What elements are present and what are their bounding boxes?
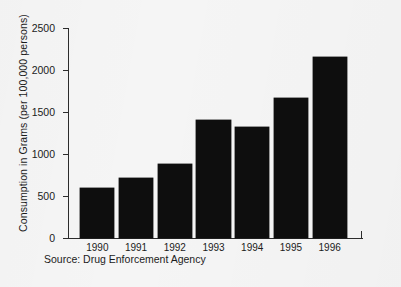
y-axis-tick: 500 [63,196,68,197]
bar [119,178,153,238]
y-axis-title: Consumption in Grams (per 100,000 person… [17,13,29,233]
bar-chart-figure: Consumption in Grams (per 100,000 person… [0,0,401,287]
bar [158,164,192,238]
x-axis-tick-label: 1994 [241,242,263,253]
y-axis-tick-label: 1000 [32,148,55,160]
x-axis-line [68,238,363,239]
y-axis-tick-label: 2000 [32,64,55,76]
y-axis-tick: 1500 [63,112,68,113]
x-axis-tick-label: 1995 [280,242,302,253]
y-axis-tick-label: 1500 [32,106,55,118]
y-axis-tick: 1000 [63,154,68,155]
y-axis-tick-label: 2500 [32,22,55,34]
bar [196,120,230,238]
bar [274,98,308,238]
y-axis-line [68,28,69,238]
x-axis-tick-label: 1992 [164,242,186,253]
y-axis-tick: 2000 [63,70,68,71]
bar [80,188,114,238]
y-axis-tick: 2500 [63,28,68,29]
x-axis-tick-label: 1990 [86,242,108,253]
source-note: Source: Drug Enforcement Agency [44,253,206,265]
y-axis-tick-label: 0 [49,232,55,244]
x-axis-tick-label: 1993 [202,242,224,253]
x-axis-end-tick [361,231,362,239]
y-axis-tick-label: 500 [37,190,55,202]
plot-area: 05001000150020002500 1990199119921993199… [68,28,363,238]
y-axis-tick: 0 [63,238,68,239]
bar [313,57,347,238]
x-axis-tick-label: 1996 [319,242,341,253]
bar [235,127,269,238]
x-axis-tick-label: 1991 [125,242,147,253]
